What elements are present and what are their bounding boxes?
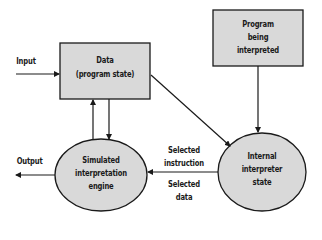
selected-data-line2: data <box>160 193 208 203</box>
internal-label-line2: interpreter <box>224 165 301 175</box>
selected-data-line1: Selected <box>160 180 208 190</box>
selected-instruction-line2: instruction <box>160 159 208 169</box>
program-label-line3: interpreted <box>220 46 297 56</box>
program-label-line2: being <box>220 33 297 43</box>
selected-data-label: Selected data <box>160 180 208 203</box>
data-to-internal-arrow <box>151 75 230 146</box>
engine-label-line1: Simulated <box>63 156 140 166</box>
internal-label: Internal interpreter state <box>224 152 301 188</box>
internal-label-line1: Internal <box>224 152 301 162</box>
engine-label-line2: interpretation <box>63 169 140 179</box>
selected-instruction-line1: Selected <box>160 146 208 156</box>
engine-label-line3: engine <box>63 182 140 192</box>
engine-label: Simulated interpretation engine <box>63 156 140 192</box>
program-label-line1: Program <box>220 20 297 30</box>
data-label-line2: (program state) <box>67 70 144 80</box>
program-box-label: Program being interpreted <box>220 20 297 56</box>
output-label: Output <box>17 157 48 167</box>
selected-instruction-label: Selected instruction <box>160 146 208 169</box>
data-label-line1: Data <box>67 56 144 66</box>
internal-label-line3: state <box>224 178 301 188</box>
input-label: Input <box>16 57 42 67</box>
data-box-label: Data (program state) <box>67 56 144 80</box>
